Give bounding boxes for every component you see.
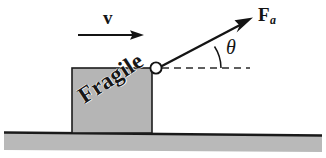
force-label-subscript: a xyxy=(270,13,276,27)
angle-arc xyxy=(215,47,222,69)
velocity-label: v xyxy=(103,8,113,27)
applied-force-arrow xyxy=(160,18,253,68)
angle-label: θ xyxy=(226,37,236,57)
physics-figure: v Fa θ Fragile xyxy=(0,0,326,158)
force-label-symbol: F xyxy=(258,4,270,25)
rope-ring xyxy=(150,62,161,73)
figure-canvas xyxy=(0,0,326,158)
force-label: Fa xyxy=(258,5,276,26)
velocity-arrow xyxy=(78,30,144,40)
